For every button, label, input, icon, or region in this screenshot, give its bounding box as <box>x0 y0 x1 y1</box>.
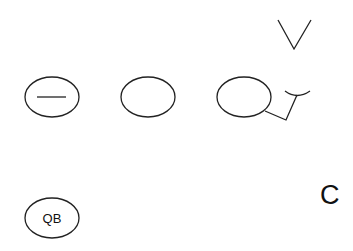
block-route-line <box>265 95 297 120</box>
quarterback: QB <box>25 198 79 238</box>
play-diagram: QB C <box>0 0 353 251</box>
lineman-tackle <box>217 77 310 120</box>
lineman-oval <box>217 77 271 117</box>
defender-v-symbol <box>278 20 311 49</box>
lineman-oval <box>121 77 175 117</box>
lineman-guard <box>121 77 175 117</box>
quarterback-label: QB <box>43 211 62 226</box>
block-cap-arc <box>285 91 310 96</box>
defender-c-label: C <box>320 180 340 210</box>
lineman-center <box>25 77 79 117</box>
